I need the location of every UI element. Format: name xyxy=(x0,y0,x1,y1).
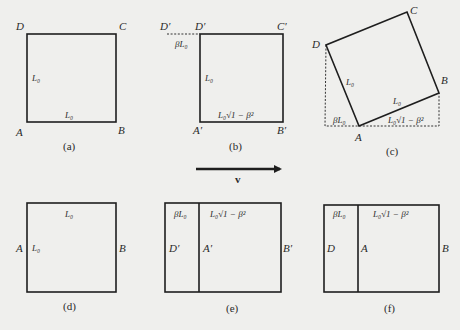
panel-d: A B L₀ L₀ (d) xyxy=(15,203,126,313)
corner-a-label: A xyxy=(354,131,362,143)
relativity-square-diagram: D C A B L₀ L₀ (a) D′ D′ C′ A′ B′ βL₀ L₀ … xyxy=(0,0,460,330)
corner-a-label: A xyxy=(15,126,23,138)
corner-b-label: B xyxy=(118,124,125,136)
projection-left-label: βL₀ xyxy=(332,115,346,125)
square-a xyxy=(27,34,116,122)
side-left-label: L₀ xyxy=(204,73,213,83)
corner-d-prime-label: D′ xyxy=(194,20,206,32)
edge-b-prime-label: B′ xyxy=(283,242,293,254)
corner-d-label: D xyxy=(15,20,24,32)
edge-d-prime-label: D′ xyxy=(168,242,180,254)
corner-c-prime-label: C′ xyxy=(277,20,287,32)
caption-d: (d) xyxy=(63,300,76,313)
panel-b: D′ D′ C′ A′ B′ βL₀ L₀ L₀√1 − β² (b) xyxy=(159,20,287,153)
corner-b-label: B xyxy=(441,74,448,86)
rotated-square-c xyxy=(326,12,439,126)
side-bottom-label: L₀ xyxy=(392,96,401,106)
side-top-label: L₀ xyxy=(64,209,73,219)
caption-c: (c) xyxy=(386,145,399,158)
caption-a: (a) xyxy=(63,140,76,153)
caption-e: (e) xyxy=(226,302,239,315)
side-left-label: L₀ xyxy=(345,77,354,87)
offset-label: βL₀ xyxy=(174,39,188,49)
corner-d-label: D xyxy=(311,38,320,50)
corner-b-prime-label: B′ xyxy=(277,124,287,136)
side-bottom-label: L₀ xyxy=(64,110,73,120)
corner-c-label: C xyxy=(119,20,127,32)
side-left-label: L₀ xyxy=(31,73,40,83)
velocity-label: v xyxy=(235,173,241,185)
caption-f: (f) xyxy=(384,302,395,315)
panel-f: D A B βL₀ L₀√1 − β² (f) xyxy=(324,205,449,315)
edge-b-label: B xyxy=(119,242,126,254)
top-right-label: L₀√1 − β² xyxy=(372,209,409,219)
side-left-label: L₀ xyxy=(31,243,40,253)
top-left-label: βL₀ xyxy=(332,209,346,219)
top-left-label: βL₀ xyxy=(173,209,187,219)
panel-a: D C A B L₀ L₀ (a) xyxy=(15,20,127,153)
corner-d-prime-shifted-label: D′ xyxy=(159,20,171,32)
edge-d-label: D xyxy=(326,242,335,254)
edge-a-prime-label: A′ xyxy=(202,242,213,254)
corner-c-label: C xyxy=(410,4,418,16)
edge-a-label: A xyxy=(360,242,368,254)
edge-a-label: A xyxy=(15,242,23,254)
panel-e: D′ A′ B′ βL₀ L₀√1 − β² (e) xyxy=(165,203,293,315)
panel-c: D C B A L₀ L₀ βL₀ L₀√1 − β² (c) xyxy=(311,4,448,158)
top-right-label: L₀√1 − β² xyxy=(209,209,246,219)
caption-b: (b) xyxy=(229,140,242,153)
corner-a-prime-label: A′ xyxy=(192,124,203,136)
side-bottom-label: L₀√1 − β² xyxy=(217,110,254,120)
velocity-arrow: v xyxy=(196,169,280,185)
projection-right-label: L₀√1 − β² xyxy=(387,115,424,125)
edge-b-label: B xyxy=(442,242,449,254)
